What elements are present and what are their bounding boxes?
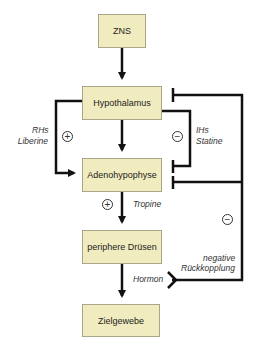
minus-sign-feedback-icon: − [222,214,233,225]
node-adenohypophyse: Adenohypophyse [82,158,162,192]
label-rhs: RHs [32,125,48,136]
label-tropine: Tropine [133,199,161,210]
node-hypothalamus: Hypothalamus [82,86,162,120]
label-rueckkopplung: Rückkopplung [181,263,235,274]
plus-sign-tropine-icon: + [102,199,113,210]
label-liberine: Liberine [17,136,48,147]
node-zns: ZNS [98,14,146,48]
label-statine: Statine [196,136,222,147]
node-periphere-druesen: periphere Drüsen [82,230,162,264]
node-zielgewebe: Zielgewebe [82,304,160,337]
label-ihs: IHs [196,125,209,136]
plus-sign-liberine-icon: + [62,131,73,142]
minus-sign-statine-icon: − [172,131,183,142]
label-hormon: Hormon [133,274,163,285]
